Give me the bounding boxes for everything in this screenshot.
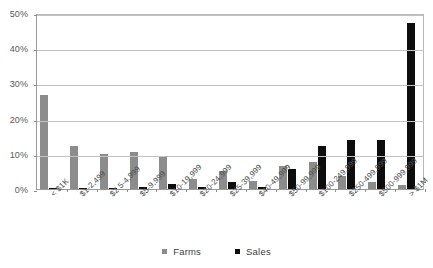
y-axis-tick-mark xyxy=(34,156,37,157)
y-axis-tick-mark xyxy=(34,15,37,16)
gridline xyxy=(37,50,423,51)
y-axis-tick-mark xyxy=(34,50,37,51)
bar-group xyxy=(306,15,336,189)
bar-chart: 0%10%20%30%40%50% < $1K$1-2,499$2.5-4,99… xyxy=(0,0,433,268)
y-axis: 0%10%20%30%40%50% xyxy=(0,14,32,190)
square-swatch-icon xyxy=(162,249,167,254)
bar-group xyxy=(156,15,186,189)
chart-legend: FarmsSales xyxy=(0,246,433,257)
bar-farms[interactable] xyxy=(368,182,376,189)
y-axis-tick-label: 40% xyxy=(10,44,28,54)
square-swatch-icon xyxy=(235,249,240,254)
gridline xyxy=(37,121,423,122)
gridline xyxy=(37,85,423,86)
gridline xyxy=(37,15,423,16)
y-axis-tick-label: 50% xyxy=(10,9,28,19)
bar-farms[interactable] xyxy=(40,95,48,189)
y-axis-tick-label: 10% xyxy=(10,150,28,160)
plot-area xyxy=(36,14,424,190)
bar-group xyxy=(186,15,216,189)
bar-farms[interactable] xyxy=(398,185,406,189)
y-axis-tick-label: 30% xyxy=(10,79,28,89)
bar-group xyxy=(67,15,97,189)
bar-group xyxy=(216,15,246,189)
y-axis-tick-label: 20% xyxy=(10,115,28,125)
legend-label: Farms xyxy=(173,246,201,257)
bar-group xyxy=(37,15,67,189)
bar-group xyxy=(97,15,127,189)
x-axis-labels: < $1K$1-2,499$2.5-4,999$5-9,999$10-19,99… xyxy=(36,192,424,244)
bar-group xyxy=(276,15,306,189)
gridline xyxy=(37,156,423,157)
legend-item[interactable]: Farms xyxy=(162,246,201,257)
x-axis-tick-mark xyxy=(425,189,426,192)
bars-layer xyxy=(37,15,423,189)
bar-group xyxy=(127,15,157,189)
y-axis-tick-label: 0% xyxy=(15,185,28,195)
legend-item[interactable]: Sales xyxy=(235,246,271,257)
bar-group xyxy=(246,15,276,189)
y-axis-tick-mark xyxy=(34,85,37,86)
legend-label: Sales xyxy=(246,246,271,257)
y-axis-tick-mark xyxy=(34,121,37,122)
